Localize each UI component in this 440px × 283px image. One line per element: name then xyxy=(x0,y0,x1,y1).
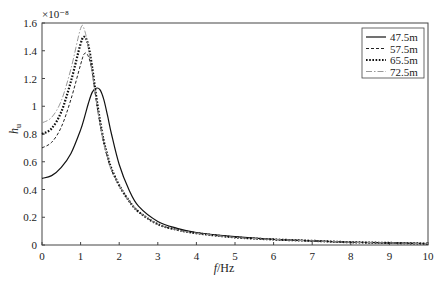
x-tick-label: 1 xyxy=(78,250,84,262)
legend-item: 47.5m xyxy=(390,31,418,43)
chart: 01234567891000.20.40.60.811.21.41.6 47.5… xyxy=(0,0,440,283)
y-tick-label: 0.4 xyxy=(23,184,37,196)
y-axis-label: hu xyxy=(7,124,23,134)
x-tick-label: 6 xyxy=(271,250,277,262)
y-tick-label: 1 xyxy=(32,100,38,112)
y-tick-label: 1.6 xyxy=(23,17,37,29)
y-tick-label: 1.2 xyxy=(23,73,37,85)
series-line-47.5m xyxy=(42,88,428,244)
legend-item: 72.5m xyxy=(390,66,418,78)
x-tick-label: 0 xyxy=(39,250,45,262)
series-line-57.5m xyxy=(42,53,428,244)
y-tick-label: 0.8 xyxy=(23,128,37,140)
y-exponent: ×10⁻⁸ xyxy=(42,8,69,20)
x-tick-label: 3 xyxy=(155,250,161,262)
x-tick-label: 2 xyxy=(116,250,122,262)
x-tick-label: 8 xyxy=(348,250,354,262)
x-tick-label: 10 xyxy=(423,250,435,262)
x-axis-label: f/Hz xyxy=(214,261,235,275)
x-tick-label: 9 xyxy=(387,250,393,262)
y-tick-label: 0.6 xyxy=(23,156,37,168)
y-tick-label: 0.2 xyxy=(23,211,37,223)
x-tick-label: 4 xyxy=(194,250,200,262)
legend: 47.5m57.5m65.5m72.5m xyxy=(362,28,424,78)
y-tick-label: 1.4 xyxy=(23,45,37,57)
x-tick-label: 7 xyxy=(309,250,315,262)
legend-item: 65.5m xyxy=(390,54,418,66)
legend-item: 57.5m xyxy=(390,43,418,55)
y-tick-label: 0 xyxy=(32,239,38,251)
